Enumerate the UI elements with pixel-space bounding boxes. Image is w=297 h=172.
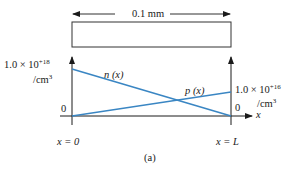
left-max-exp: +18 [39, 58, 50, 66]
right-x-label: x = L [216, 137, 239, 148]
right-zero-label: 0 [235, 103, 240, 114]
n-curve-label: n (x) [104, 70, 124, 81]
left-max-base: 1.0 × 10 [4, 59, 39, 70]
width-label: 0.1 mm [132, 9, 164, 20]
right-max-label: 1.0 × 10+16 [235, 85, 281, 96]
n-curve [72, 69, 231, 116]
left-zero-label: 0 [61, 104, 66, 115]
right-unit-label: /cm3 [257, 99, 276, 110]
left-max-label: 1.0 × 10+18 [4, 60, 50, 71]
left-x-label: x = 0 [57, 137, 79, 148]
p-curve [72, 92, 231, 116]
left-unit-label: /cm3 [33, 75, 52, 86]
x-axis-label: x [256, 110, 261, 121]
p-curve-label: p (x) [185, 86, 205, 97]
sample-rectangle [72, 22, 231, 47]
caption: (a) [144, 153, 156, 164]
